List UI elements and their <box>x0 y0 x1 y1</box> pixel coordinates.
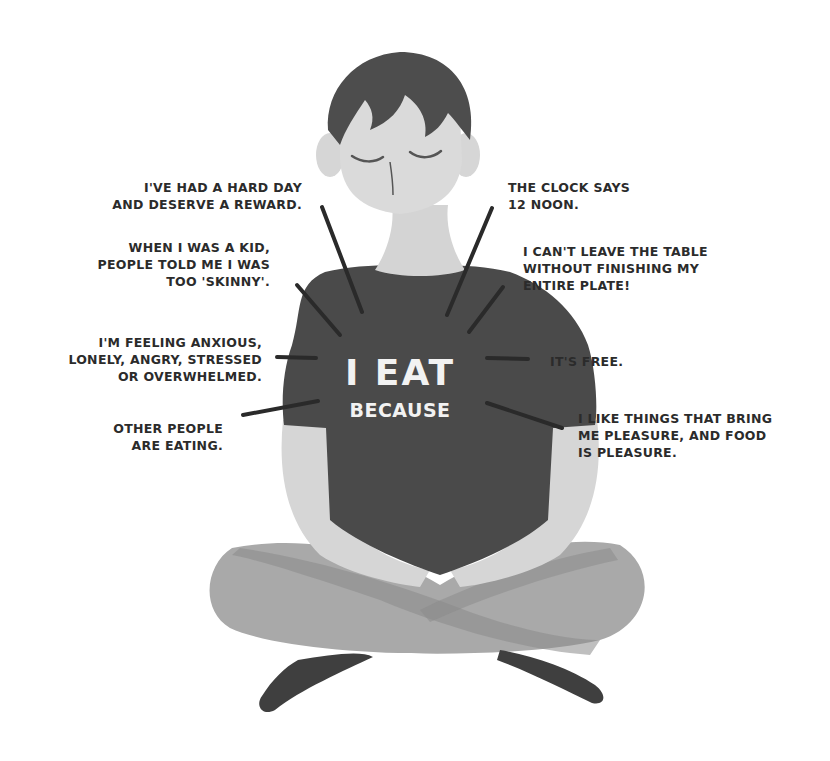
reason-finish-plate: I CAN'T LEAVE THE TABLE WITHOUT FINISHIN… <box>523 243 753 294</box>
reason-hard-day: I'VE HAD A HARD DAY AND DESERVE A REWARD… <box>80 179 302 213</box>
reason-others-eating: OTHER PEOPLE ARE EATING. <box>80 420 223 454</box>
neck <box>375 205 465 276</box>
reason-free: IT'S FREE. <box>550 353 670 370</box>
shirt-subtitle: BECAUSE <box>330 399 470 421</box>
reason-emotions: I'M FEELING ANXIOUS, LONELY, ANGRY, STRE… <box>40 334 262 385</box>
reason-skinny: WHEN I WAS A KID, PEOPLE TOLD ME I WAS T… <box>80 239 270 290</box>
i-eat-because-infographic: I EAT BECAUSE I'VE HAD A HARD DAY AND DE… <box>0 0 830 761</box>
reason-clock: THE CLOCK SAYS 12 NOON. <box>508 179 708 213</box>
reason-pleasure: I LIKE THINGS THAT BRING ME PLEASURE, AN… <box>578 410 808 461</box>
shirt-title: I EAT <box>330 352 470 393</box>
head <box>316 52 480 214</box>
feet <box>259 650 603 712</box>
